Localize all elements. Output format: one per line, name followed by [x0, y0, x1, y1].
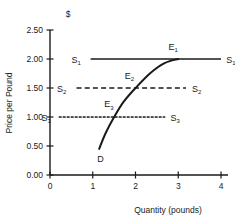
- supply-label-right-s1: S1: [226, 55, 235, 67]
- demand-curve-label: D: [97, 154, 104, 164]
- supply-demand-chart: $ Price per Pound Quantity (pounds) 0.00…: [0, 0, 235, 221]
- equilibrium-label-e1: E1: [168, 42, 178, 54]
- y-axis-title: Price per Pound: [4, 72, 14, 133]
- demand-curve-group: D: [97, 59, 178, 164]
- equilibrium-label-e3: E3: [104, 99, 114, 111]
- y-tick-label: 2.50: [26, 25, 43, 35]
- supply-label-left-s2: S2: [57, 84, 67, 96]
- x-tick-label: 4: [219, 181, 224, 191]
- y-tick-label: 1.50: [26, 83, 43, 93]
- currency-symbol-label: $: [66, 9, 71, 19]
- x-tick-label: 2: [133, 181, 138, 191]
- y-tick-label: 0.00: [26, 170, 43, 180]
- supply-label-left-s1: S1: [71, 55, 81, 67]
- equilibrium-label-e2: E2: [125, 71, 135, 83]
- x-tick-label: 0: [48, 181, 53, 191]
- chart-canvas: $ Price per Pound Quantity (pounds) 0.00…: [0, 0, 235, 221]
- supply-lines-group: S1S1S2S2S3S3: [41, 55, 235, 125]
- x-axis-title: Quantity (pounds): [134, 205, 202, 215]
- equilibrium-labels-group: E1E2E3: [104, 42, 178, 111]
- y-tick-label: 0.50: [26, 141, 43, 151]
- x-tick-label: 1: [90, 181, 95, 191]
- y-tick-label: 2.00: [26, 54, 43, 64]
- supply-label-right-s2: S2: [192, 84, 202, 96]
- supply-label-right-s3: S3: [171, 113, 181, 125]
- x-tick-label: 3: [176, 181, 181, 191]
